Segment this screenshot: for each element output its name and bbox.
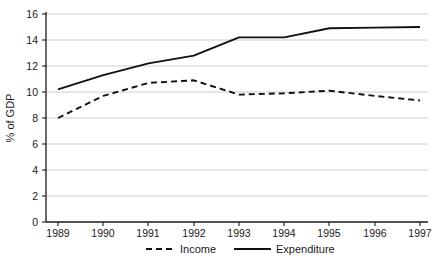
xtick-label-1996: 1996 (363, 227, 387, 239)
ytick-label-4: 4 (32, 164, 38, 176)
y-axis-tick-labels: 16 14 12 10 8 6 4 2 0 (26, 8, 38, 228)
ytick-label-8: 8 (32, 112, 38, 124)
ytick-label-16: 16 (26, 8, 38, 20)
ytick-label-12: 12 (26, 60, 38, 72)
ytick-label-6: 6 (32, 138, 38, 150)
ytick-label-14: 14 (26, 34, 38, 46)
xtick-label-1997: 1997 (408, 227, 432, 239)
ytick-label-2: 2 (32, 190, 38, 202)
xtick-label-1989: 1989 (46, 227, 70, 239)
line-chart: 16 14 12 10 8 6 4 2 0 % of GDP (0, 0, 437, 263)
xtick-label-1994: 1994 (272, 227, 296, 239)
chart-legend: Income Expenditure (146, 243, 335, 255)
series-line-expenditure (58, 27, 420, 89)
ytick-label-10: 10 (26, 86, 38, 98)
x-axis-tick-labels: 1989 1990 1991 1992 1993 1994 1995 1996 … (46, 227, 432, 239)
xtick-label-1991: 1991 (136, 227, 160, 239)
xtick-label-1990: 1990 (91, 227, 115, 239)
gridlines (46, 14, 428, 196)
ytick-label-0: 0 (32, 216, 38, 228)
y-axis-title: % of GDP (4, 94, 16, 143)
xtick-label-1995: 1995 (317, 227, 341, 239)
series-line-income (58, 80, 420, 118)
legend-label-income: Income (180, 243, 216, 255)
legend-label-expenditure: Expenditure (276, 243, 335, 255)
xtick-label-1992: 1992 (182, 227, 206, 239)
chart-figure: 16 14 12 10 8 6 4 2 0 % of GDP (0, 0, 437, 263)
xtick-label-1993: 1993 (227, 227, 251, 239)
